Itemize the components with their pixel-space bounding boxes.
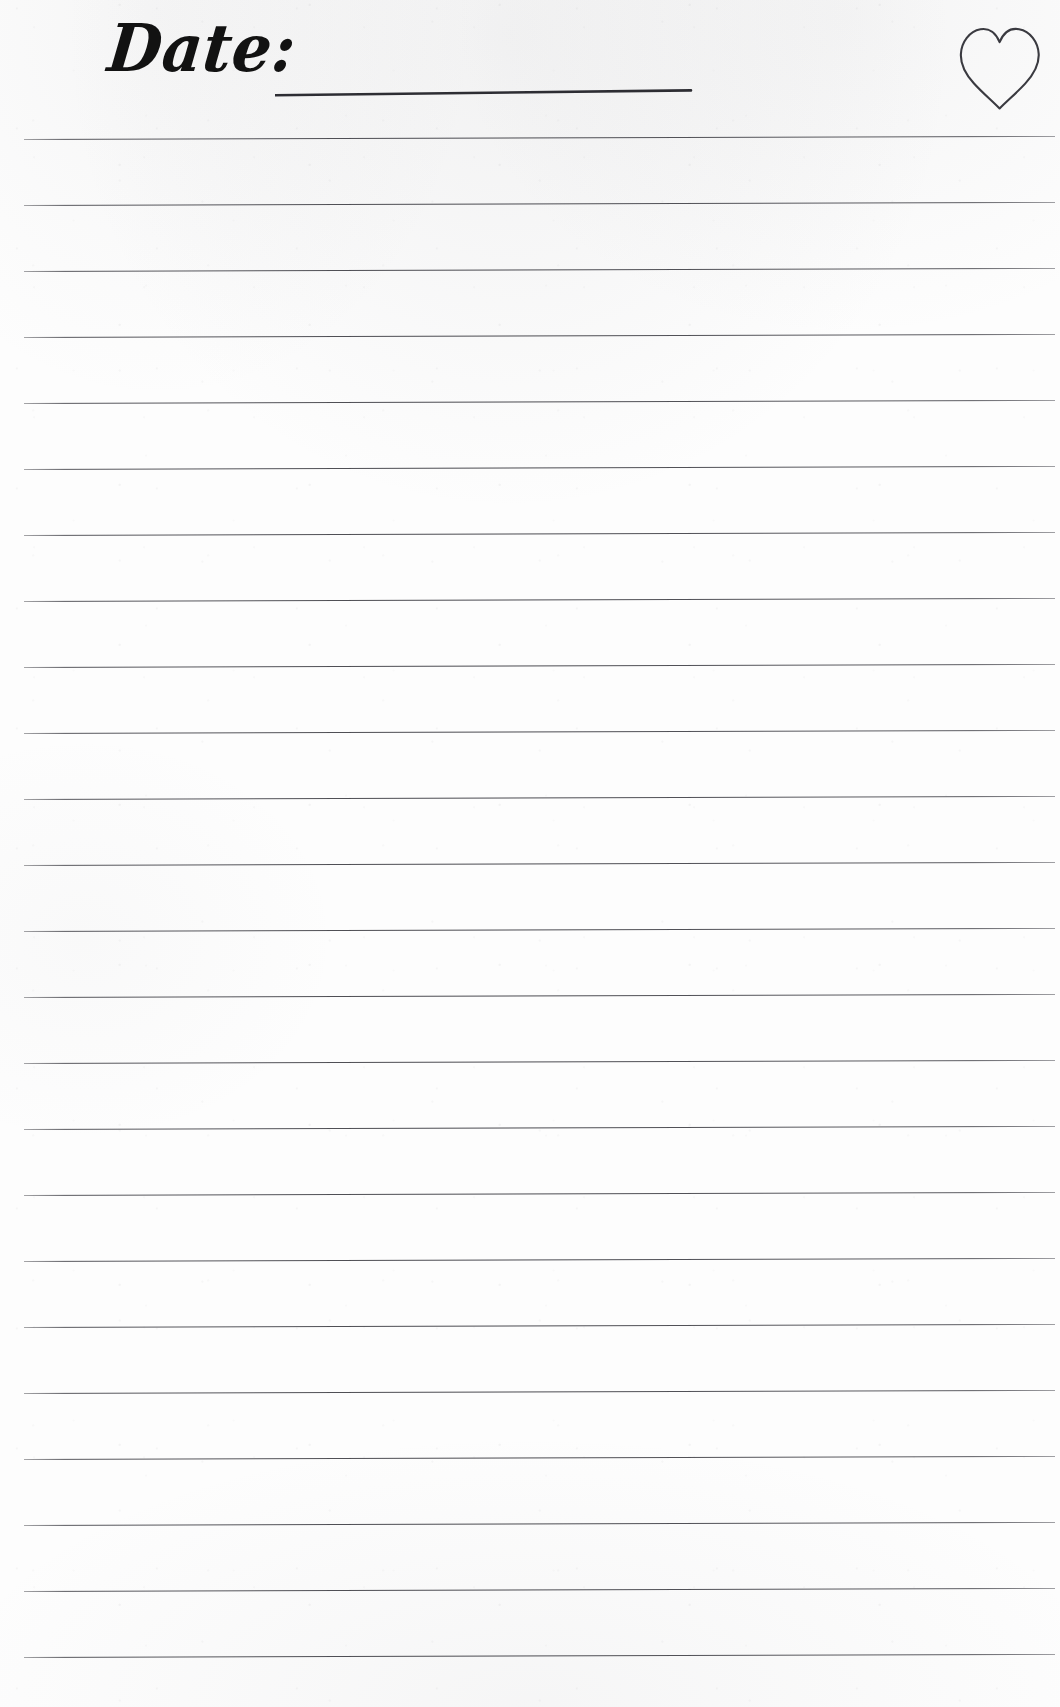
rule-line [24, 1654, 1055, 1658]
rule-line [24, 928, 1055, 932]
rule-line [24, 1126, 1055, 1130]
rule-line [24, 796, 1055, 800]
rule-line [24, 730, 1055, 734]
rule-line [24, 1324, 1055, 1328]
rule-line [24, 1588, 1055, 1592]
rule-line [24, 532, 1055, 536]
rule-line [24, 1192, 1055, 1196]
rule-line [24, 1060, 1055, 1064]
rule-line [24, 1258, 1055, 1262]
journal-page: Date: [0, 0, 1060, 1707]
rule-line [24, 400, 1055, 404]
rule-line [24, 994, 1055, 998]
rule-line [24, 1522, 1055, 1526]
rule-line [24, 466, 1055, 470]
rule-line [24, 1456, 1055, 1460]
rule-line [24, 862, 1055, 866]
ruled-lines [0, 0, 1060, 1707]
rule-line [24, 1390, 1055, 1394]
rule-line [24, 598, 1055, 602]
rule-line [24, 664, 1055, 668]
rule-line [24, 202, 1055, 206]
rule-line [24, 136, 1055, 140]
rule-line [24, 334, 1055, 338]
rule-line [24, 268, 1055, 272]
